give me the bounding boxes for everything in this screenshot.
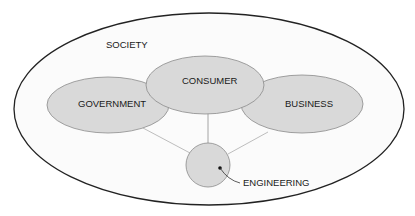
consumer-label: CONSUMER: [182, 75, 238, 86]
engineering-circle: [186, 143, 230, 187]
society-label: SOCIETY: [106, 39, 148, 50]
society-diagram: SOCIETY CONSUMER GOVERNMENT BUSINESS ENG…: [0, 0, 415, 216]
government-label: GOVERNMENT: [78, 98, 146, 109]
business-label: BUSINESS: [285, 98, 333, 109]
engineering-label: ENGINEERING: [243, 177, 310, 188]
